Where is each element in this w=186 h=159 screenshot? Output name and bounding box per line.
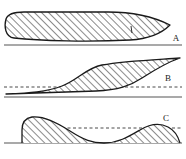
panel-c-hatch-fill [0,105,186,153]
panel-c-label: C [163,113,169,123]
panel-a-label: A [173,33,180,43]
panel-b-label: B [165,73,171,83]
panel-c: C [0,105,186,153]
figure-container: A B C [0,0,186,159]
panel-b: B [0,50,186,106]
panel-a: A [0,0,186,56]
panel-a-hatch-fill [0,0,186,56]
diagram-svg: A B C [0,0,186,159]
